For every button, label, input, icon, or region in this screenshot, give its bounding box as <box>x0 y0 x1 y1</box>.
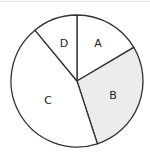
slice-label-b: B <box>109 89 117 102</box>
pie-chart: A B C D <box>0 0 150 160</box>
slice-label-d: D <box>60 37 68 50</box>
slice-label-a: A <box>94 37 102 50</box>
pie-slices <box>11 15 143 147</box>
slice-label-c: C <box>44 94 52 107</box>
